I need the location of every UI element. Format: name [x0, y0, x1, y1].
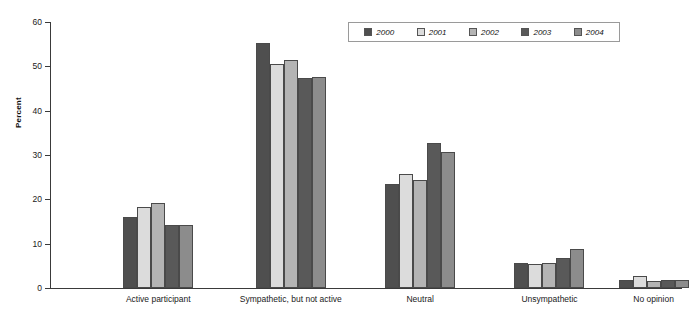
legend-item[interactable]: 2004 [574, 28, 604, 37]
bar [270, 64, 284, 288]
legend: 20002001200220032004 [348, 22, 620, 42]
x-axis-label: Unsympathetic [521, 294, 577, 304]
legend-label: 2000 [376, 28, 394, 37]
legend-swatch-icon [574, 28, 582, 36]
bar [385, 184, 399, 288]
bar [633, 276, 647, 288]
legend-swatch-icon [417, 28, 425, 36]
legend-item[interactable]: 2003 [521, 28, 551, 37]
bar [256, 43, 270, 288]
y-tick-label: 50 [2, 61, 42, 71]
bar [514, 263, 528, 288]
bar [556, 258, 570, 288]
plot-area [51, 22, 682, 288]
bar [312, 77, 326, 288]
legend-label: 2001 [429, 28, 447, 37]
y-tick-label: 40 [2, 106, 42, 116]
bar [165, 225, 179, 288]
x-axis-label: Neutral [406, 294, 433, 304]
bar [661, 280, 675, 288]
bar [542, 263, 556, 288]
bar [123, 217, 137, 288]
x-axis-label: No opinion [633, 294, 674, 304]
legend-swatch-icon [521, 28, 529, 36]
legend-label: 2004 [586, 28, 604, 37]
bar [413, 180, 427, 288]
legend-item[interactable]: 2000 [364, 28, 394, 37]
legend-item[interactable]: 2002 [469, 28, 499, 37]
legend-swatch-icon [469, 28, 477, 36]
y-tick-label: 10 [2, 239, 42, 249]
y-tick-label: 30 [2, 150, 42, 160]
legend-item[interactable]: 2001 [417, 28, 447, 37]
y-tick-label: 60 [2, 17, 42, 27]
bar [151, 203, 165, 288]
bar [441, 152, 455, 288]
bar [675, 280, 689, 288]
bar [528, 264, 542, 288]
x-axis-label: Sympathetic, but not active [240, 294, 342, 304]
bar [179, 225, 193, 288]
bar [647, 281, 661, 288]
bar-group [256, 22, 326, 288]
bar [427, 143, 441, 288]
y-tick-label: 0 [2, 283, 42, 293]
bar [570, 249, 584, 288]
legend-label: 2003 [533, 28, 551, 37]
y-tick-label: 20 [2, 194, 42, 204]
bar-group [619, 22, 689, 288]
bar [399, 174, 413, 288]
bar [284, 60, 298, 288]
bar-group [514, 22, 584, 288]
legend-swatch-icon [364, 28, 372, 36]
x-axis-label: Active participant [126, 294, 191, 304]
bar [137, 207, 151, 288]
bar [619, 280, 633, 288]
bar-group [123, 22, 193, 288]
bar [298, 78, 312, 288]
x-axis-line [50, 288, 682, 289]
legend-label: 2002 [481, 28, 499, 37]
bar-group [385, 22, 455, 288]
